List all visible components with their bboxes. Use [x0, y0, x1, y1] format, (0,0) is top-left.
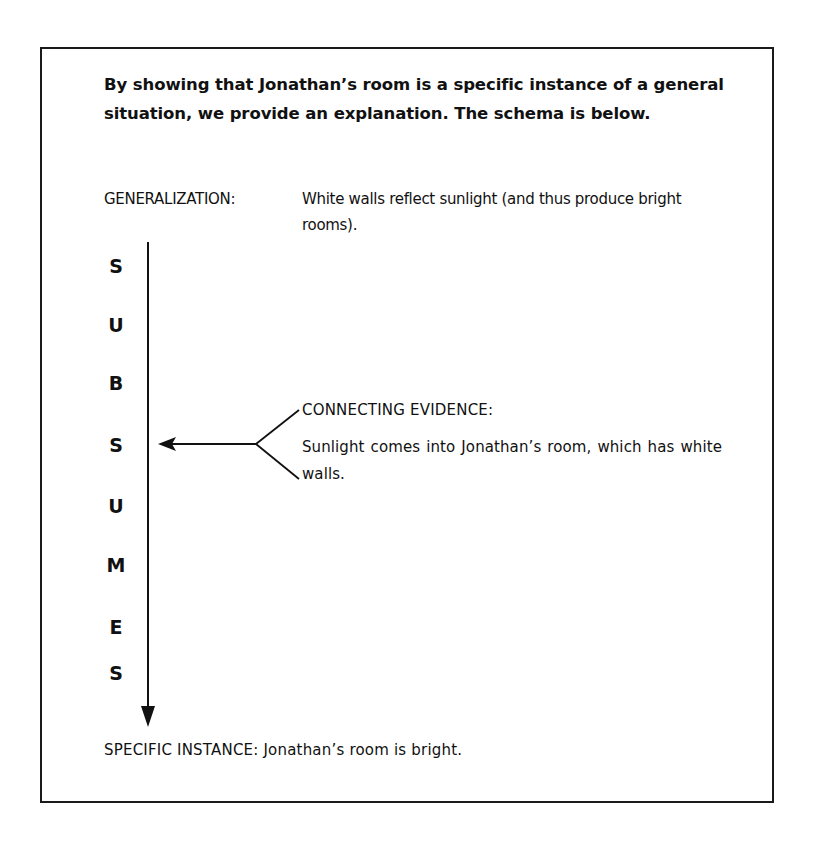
subsumes-down-arrow-icon	[141, 242, 155, 727]
specific-instance-line: SPECIFIC INSTANCE: Jonathan’s room is br…	[104, 737, 462, 763]
connecting-evidence-label: CONNECTING EVIDENCE:	[302, 397, 493, 423]
evidence-fork-bracket-icon	[256, 410, 299, 479]
specific-instance-label: SPECIFIC INSTANCE:	[104, 741, 259, 759]
connecting-evidence-left-arrow-icon	[158, 437, 256, 451]
specific-instance-text: Jonathan’s room is bright.	[263, 741, 462, 759]
connecting-evidence-text: Sunlight comes into Jonathan’s room, whi…	[302, 434, 722, 488]
